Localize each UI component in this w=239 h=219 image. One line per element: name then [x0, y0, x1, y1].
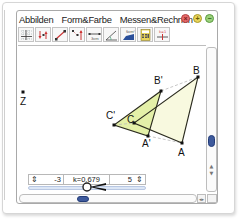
- resize-corner[interactable]: [207, 194, 217, 203]
- svg-text:5cm²: 5cm²: [126, 30, 135, 34]
- close-icon[interactable]: ×: [181, 14, 190, 23]
- horizontal-scroll-thumb[interactable]: [77, 196, 89, 202]
- label-z: Z: [20, 96, 26, 107]
- stepper-icon[interactable]: ⇕: [31, 175, 38, 184]
- menubar: Abbilden Form&Farbe Messen&Rechnen × + −: [17, 11, 217, 27]
- grid-icon: [20, 29, 33, 41]
- label-b: B: [193, 65, 200, 76]
- point-reflection-icon: [37, 29, 50, 41]
- label-a-prime: A': [142, 138, 151, 149]
- label-a: A: [178, 147, 185, 158]
- reflection-icon: [71, 29, 84, 41]
- line-segment-tool[interactable]: [52, 27, 68, 42]
- point-reflection-tool[interactable]: [69, 27, 85, 42]
- angle-icon: [105, 29, 118, 41]
- toolbar: 3cm 5cm² k=1: [18, 27, 170, 43]
- scroll-left-right-icon[interactable]: ◂▸: [197, 194, 206, 203]
- horizontal-scrollbar[interactable]: [19, 194, 197, 203]
- area-icon: 5cm²: [122, 29, 135, 41]
- scroll-up-icon[interactable]: ▲: [208, 163, 215, 169]
- plus-icon[interactable]: +: [193, 14, 202, 23]
- parameter-tool[interactable]: k=1: [154, 27, 170, 42]
- label-b-prime: B': [154, 75, 163, 86]
- scroll-down-icon[interactable]: ▼: [208, 170, 215, 176]
- geometry-canvas[interactable]: Z A B C A' B' C': [18, 45, 206, 192]
- svg-text:3cm: 3cm: [91, 37, 99, 41]
- point-b-prime: [160, 90, 163, 93]
- angle-tool[interactable]: [103, 27, 119, 42]
- minus-icon[interactable]: −: [205, 14, 214, 23]
- vertical-scroll-thumb[interactable]: [208, 135, 215, 147]
- slider-max-value[interactable]: 5: [128, 175, 132, 184]
- calculator-tool[interactable]: [137, 27, 153, 42]
- window-buttons: × + −: [181, 14, 214, 23]
- point-mirror-tool[interactable]: [35, 27, 51, 42]
- area-tool[interactable]: 5cm²: [120, 27, 136, 42]
- label-c-prime: C': [106, 110, 115, 121]
- calculator-icon: [139, 29, 152, 41]
- vertical-scrollbar[interactable]: ▲ ▼: [206, 47, 217, 192]
- label-c: C: [127, 114, 134, 125]
- menu-abbilden[interactable]: Abbilden: [17, 14, 54, 25]
- measure-distance-tool[interactable]: 3cm: [86, 27, 102, 42]
- svg-text:k=1: k=1: [159, 30, 166, 34]
- outer-divider: [4, 10, 5, 200]
- grid-tool[interactable]: [18, 27, 34, 42]
- slider-handle-icon[interactable]: [82, 181, 108, 193]
- point-z: [22, 91, 25, 94]
- slider-min-cell[interactable]: ⇕ -3: [29, 175, 64, 184]
- slider-min-value[interactable]: -3: [54, 175, 61, 184]
- slider-max-cell[interactable]: 5 ⇕: [110, 175, 145, 184]
- menu-form-farbe[interactable]: Form&Farbe: [60, 14, 112, 25]
- stepper-icon[interactable]: ⇕: [136, 175, 143, 184]
- segment-icon: [54, 29, 67, 41]
- parameter-icon: k=1: [156, 29, 169, 41]
- ruler-icon: 3cm: [88, 29, 101, 41]
- point-c-prime: [113, 124, 116, 127]
- app-window: Abbilden Form&Farbe Messen&Rechnen × + −: [16, 10, 218, 204]
- point-a: [181, 142, 184, 145]
